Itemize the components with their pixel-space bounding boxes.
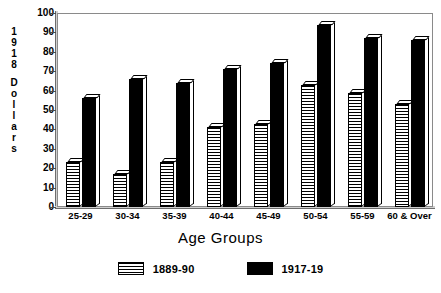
bar-side-face (96, 95, 100, 207)
bar-side-face (143, 75, 147, 206)
bar-1889-90-40-44 (207, 127, 221, 207)
bar-front-face (411, 40, 425, 207)
legend-swatch-1917-19 (247, 262, 273, 275)
bar-1889-90-55-59 (348, 93, 362, 207)
bar-top-face (130, 75, 147, 79)
bar-front-face (207, 127, 221, 207)
bar-side-face (331, 21, 335, 206)
bar-top-face (318, 21, 335, 25)
y-axis-title-char: s (6, 143, 22, 154)
y-axis-title-char: r (6, 132, 22, 143)
bar-1917-19-25-29 (82, 98, 96, 207)
y-axis-title-char: D (6, 77, 22, 88)
bar-front-face (301, 85, 315, 207)
y-axis-title-char: a (6, 121, 22, 132)
bar-group (339, 13, 386, 207)
bar-front-face (66, 162, 80, 207)
x-axis-tick-label: 60 & Over (380, 210, 439, 222)
y-axis-tick-mark (49, 207, 56, 208)
bar-side-face (190, 79, 194, 206)
y-axis-tick-labels: 0102030405060708090100 (22, 0, 54, 293)
bar-1889-90-60 & Over (395, 104, 409, 207)
bar-1889-90-45-49 (254, 124, 268, 207)
bar-front-face (254, 124, 268, 207)
y-axis-title: 1918Dollars (6, 26, 22, 154)
bar-front-face (82, 98, 96, 207)
chart-legend: 1889-901917-19 (0, 262, 441, 275)
bar-group (198, 13, 245, 207)
bar-group (57, 13, 104, 207)
bar-front-face (113, 174, 127, 207)
y-axis-tick-mark (49, 52, 56, 53)
bar-front-face (270, 63, 284, 207)
bar-front-face (223, 69, 237, 207)
bar-group (292, 13, 339, 207)
bar-front-face (348, 93, 362, 207)
legend-item: 1889-90 (118, 262, 195, 275)
bar-front-face (176, 83, 190, 207)
legend-swatch-1889-90 (118, 262, 144, 275)
y-axis-title-char: 8 (6, 59, 22, 70)
y-axis-tick-mark (49, 91, 56, 92)
x-axis-title: Age Groups (0, 229, 441, 246)
bar-front-face (395, 104, 409, 207)
bar-front-face (364, 38, 378, 207)
y-axis-tick-mark (49, 13, 56, 14)
bar-top-face (83, 94, 100, 98)
y-axis-tick-mark (49, 168, 56, 169)
y-axis-tick-mark (49, 110, 56, 111)
bar-side-face (284, 60, 288, 207)
bar-chart: 1918Dollars 0102030405060708090100 25-29… (0, 0, 441, 293)
y-axis-tick-mark (49, 149, 56, 150)
bar-front-face (129, 79, 143, 207)
x-axis-tick-labels: 25-2930-3435-3940-4445-4950-5455-5960 & … (57, 210, 433, 226)
bar-1917-19-40-44 (223, 69, 237, 207)
bar-top-face (224, 65, 241, 69)
bar-side-face (378, 35, 382, 207)
bar-top-face (177, 79, 194, 83)
bar-series-container (57, 13, 433, 207)
legend-item: 1917-19 (247, 262, 324, 275)
y-axis-title-char: 1 (6, 48, 22, 59)
bar-top-face (271, 59, 288, 63)
bar-group (245, 13, 292, 207)
bar-1917-19-55-59 (364, 38, 378, 207)
y-axis-title-char: o (6, 88, 22, 99)
bar-group (104, 13, 151, 207)
y-axis-title-char: l (6, 110, 22, 121)
bar-front-face (160, 162, 174, 207)
bar-1889-90-25-29 (66, 162, 80, 207)
bar-side-face (237, 66, 241, 207)
y-axis-title-char: l (6, 99, 22, 110)
bar-1917-19-30-34 (129, 79, 143, 207)
bar-top-face (412, 36, 429, 40)
y-axis-tick-mark (49, 32, 56, 33)
bar-side-face (425, 37, 429, 207)
y-axis-tick-mark (49, 129, 56, 130)
bar-top-face (365, 34, 382, 38)
bar-1917-19-45-49 (270, 63, 284, 207)
bar-1889-90-50-54 (301, 85, 315, 207)
y-axis-title-char: 1 (6, 26, 22, 37)
bar-group (386, 13, 433, 207)
bar-1917-19-60 & Over (411, 40, 425, 207)
bar-1889-90-30-34 (113, 174, 127, 207)
bar-group (151, 13, 198, 207)
bar-front-face (317, 25, 331, 207)
bar-1917-19-35-39 (176, 83, 190, 207)
legend-label: 1917-19 (282, 263, 324, 275)
bar-1889-90-35-39 (160, 162, 174, 207)
bar-1917-19-50-54 (317, 25, 331, 207)
y-axis-tick-mark (49, 71, 56, 72)
y-axis-title-char: 9 (6, 37, 22, 48)
legend-label: 1889-90 (153, 263, 195, 275)
y-axis-tick-mark (49, 188, 56, 189)
y-axis-title-spacer (6, 70, 22, 77)
